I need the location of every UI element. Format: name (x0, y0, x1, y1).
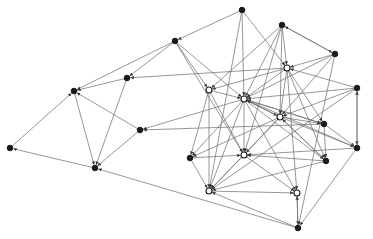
edge-D-V (299, 57, 335, 225)
edge-C-F (77, 42, 173, 89)
graph-node-G (284, 65, 290, 71)
edge-E-F (77, 79, 124, 91)
graph-node-L (321, 121, 327, 127)
graph-node-A (239, 7, 245, 13)
edge-E-S (96, 81, 126, 165)
edge-J-K (283, 89, 354, 116)
edge-Q-P (247, 148, 354, 155)
graph-node-P (241, 152, 247, 158)
edge-O-P (193, 155, 241, 158)
edge-M-F (77, 93, 138, 129)
edge-A-C (178, 11, 240, 39)
graph-node-R (323, 158, 329, 164)
graph-node-D (332, 51, 338, 57)
edge-J-T (212, 90, 355, 190)
edge-D-G (290, 55, 332, 67)
edge-A-G (244, 12, 285, 65)
graph-node-U (294, 190, 300, 196)
edge-T-U (212, 191, 294, 193)
edge-H-P (210, 93, 242, 153)
graph-node-O (187, 155, 193, 161)
graph-node-M (137, 127, 143, 133)
edge-P-U (246, 157, 294, 192)
edge-S-N (13, 149, 92, 168)
graph-node-H (206, 87, 212, 93)
edge-K-O (193, 118, 278, 156)
edge-layer (12, 11, 357, 227)
edge-H-O (191, 93, 208, 155)
graph-node-Q (354, 145, 360, 151)
edge-L-Q (326, 126, 354, 147)
edge-G-E (130, 68, 284, 78)
graph-node-J (354, 85, 360, 91)
edge-G-L (289, 70, 323, 121)
graph-node-N (7, 145, 13, 151)
edge-V-S (98, 169, 295, 227)
edge-J-G (290, 69, 354, 87)
edge-O-T (191, 160, 207, 188)
edge-C-E (130, 43, 173, 76)
edge-Q-I (247, 100, 354, 147)
edge-B-I (246, 28, 281, 97)
edge-B-K (280, 28, 282, 114)
graph-node-E (124, 75, 130, 81)
network-graph (0, 0, 373, 239)
edge-G-K (281, 71, 287, 114)
graph-node-C (172, 38, 178, 44)
graph-node-T (206, 188, 212, 194)
graph-node-S (92, 165, 98, 171)
edge-D-B (285, 27, 333, 53)
edge-B-G (282, 28, 286, 65)
edge-N-F (12, 93, 71, 146)
graph-node-V (295, 225, 301, 231)
edge-V-U (297, 196, 298, 225)
edge-A-I (242, 13, 244, 96)
edge-I-M (143, 100, 241, 129)
edge-B-H (212, 27, 280, 88)
graph-node-K (277, 114, 283, 120)
edge-V-T (212, 192, 295, 227)
graph-node-F (71, 88, 77, 94)
edge-R-P (247, 155, 323, 161)
edge-L-R (324, 127, 326, 158)
edge-M-S (98, 132, 138, 166)
graph-node-B (279, 22, 285, 28)
edge-D-I (247, 55, 333, 97)
graph-node-I (241, 96, 247, 102)
edge-F-S (75, 94, 94, 165)
edge-C-H (177, 43, 208, 87)
